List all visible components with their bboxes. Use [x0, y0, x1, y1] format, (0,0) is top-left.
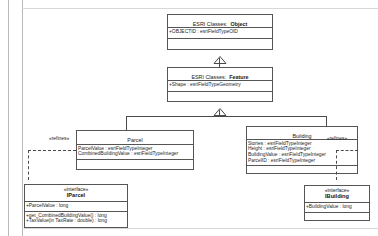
page-frame-inner-rule	[22, 0, 23, 236]
class-building-attributes-compartment: Stories : esriFieldTypeInteger Height : …	[247, 140, 357, 166]
class-building-title: Building	[292, 133, 311, 139]
edge-label-parcel-refines: «refines»	[49, 136, 69, 141]
class-feature-attributes-compartment: +Shape : esriFieldTypeGeometry	[168, 81, 272, 92]
uml-class-diagram-canvas: ESRI Classes: Object +OBJECTID : esriFie…	[0, 0, 378, 236]
class-parcel-operations-compartment	[77, 160, 193, 169]
class-object-operations-compartment	[168, 39, 272, 49]
edge-parcel-iparcel-horizontal	[28, 150, 76, 151]
edge-parcel-iparcel-vertical	[28, 150, 29, 180]
class-object-attributes-compartment: +OBJECTID : esriFieldTypeOID	[168, 28, 272, 39]
edge-building-ibuilding-horizontal	[336, 150, 358, 151]
class-object-title-compartment: ESRI Classes: Object	[168, 15, 272, 28]
page-frame-top-rule	[22, 8, 378, 9]
generalization-arrow-object	[213, 50, 227, 68]
edge-building-ibuilding-vertical	[336, 150, 337, 180]
class-ibuilding-title-compartment: «interface» IBuilding	[305, 186, 369, 203]
class-object-attribute: +OBJECTID : esriFieldTypeOID	[168, 29, 272, 35]
class-building-operations-compartment	[247, 166, 357, 173]
class-iparcel-operation: +TaxValue(in TaxRate : double) : long	[25, 218, 127, 224]
class-feature-operations-compartment	[168, 92, 272, 101]
class-iparcel-title-compartment: «interface» IParcel	[25, 185, 127, 202]
class-ibuilding-title: IBuilding	[305, 194, 369, 200]
class-building-attribute: ParcelID : esriFieldTypeInteger	[247, 158, 357, 164]
class-ibuilding-operations-compartment	[305, 213, 369, 220]
edge-feature-branch-bar	[126, 116, 326, 117]
class-feature-title-compartment: ESRI Classes: Feature	[168, 68, 272, 81]
edge-object-feature	[219, 58, 220, 67]
class-iparcel-operations-compartment: +get_CombinedBuildingValue() : long +Tax…	[25, 212, 127, 227]
class-parcel-title-compartment: Parcel	[77, 131, 193, 145]
generalization-arrow-feature	[213, 102, 227, 120]
class-object-title: ESRI Classes: Object	[193, 21, 248, 27]
class-box-object[interactable]: ESRI Classes: Object +OBJECTID : esriFie…	[167, 14, 273, 50]
class-box-iparcel[interactable]: «interface» IParcel +ParcelValue : long …	[24, 184, 128, 228]
class-iparcel-attribute: +ParcelValue : long	[25, 203, 127, 209]
class-box-ibuilding[interactable]: «interface» IBuilding +BuildingValue : l…	[304, 185, 370, 221]
edge-feature-building	[326, 116, 327, 126]
class-box-parcel[interactable]: Parcel ParcelValue : esriFieldTypeIntege…	[76, 130, 194, 170]
page-frame-left-rule	[8, 0, 9, 236]
edge-feature-parcel	[126, 116, 127, 130]
class-iparcel-attributes-compartment: +ParcelValue : long	[25, 202, 127, 212]
class-parcel-attribute: CombinedBuildingValue : esriFieldTypeInt…	[77, 151, 193, 157]
class-box-feature[interactable]: ESRI Classes: Feature +Shape : esriField…	[167, 67, 273, 102]
class-iparcel-title: IParcel	[25, 193, 127, 199]
edge-label-building-refines: «refines»	[327, 136, 347, 141]
class-ibuilding-attributes-compartment: +BuildingValue : long	[305, 203, 369, 213]
class-parcel-title: Parcel	[127, 137, 142, 143]
class-parcel-attributes-compartment: ParcelValue : esriFieldTypeInteger Combi…	[77, 145, 193, 160]
class-feature-title: ESRI Classes: Feature	[191, 74, 248, 80]
class-ibuilding-attribute: +BuildingValue : long	[305, 204, 369, 210]
page-frame-bottom-rule	[22, 228, 378, 229]
class-feature-attribute: +Shape : esriFieldTypeGeometry	[168, 82, 272, 88]
